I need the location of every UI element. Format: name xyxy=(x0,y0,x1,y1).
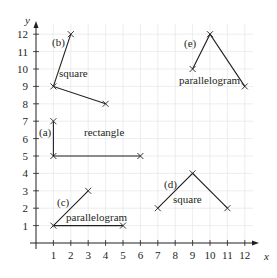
coordinate-grid-figure: 1 2 3 4 5 6 7 8 9 10 11 12 1 2 3 4 5 6 7… xyxy=(0,0,277,278)
x-axis-arrow-icon xyxy=(252,241,259,246)
shape-c-name: parallelogram xyxy=(66,211,128,223)
y-tick-label: 12 xyxy=(17,28,28,40)
x-tick-label: 12 xyxy=(239,249,250,261)
x-axis-label: x xyxy=(263,250,269,262)
x-tick-label: 1 xyxy=(51,249,57,261)
y-tick-label: 11 xyxy=(17,46,28,58)
shape-d-name: square xyxy=(173,193,202,205)
y-axis-arrow-icon xyxy=(34,21,39,28)
shape-b-name: square xyxy=(59,67,88,79)
x-tick-label: 10 xyxy=(205,249,217,261)
x-tick-label: 9 xyxy=(190,249,196,261)
shape-a-name: rectangle xyxy=(84,126,124,138)
y-tick-label: 8 xyxy=(23,98,29,110)
shape-e-name: parallelogram xyxy=(179,74,241,86)
shapes xyxy=(53,34,244,225)
x-tick-label: 3 xyxy=(85,249,91,261)
y-tick-label: 6 xyxy=(23,133,29,145)
x-tick-label: 4 xyxy=(103,249,109,261)
y-tick-label: 3 xyxy=(23,185,29,197)
shape-d-tag: (d) xyxy=(164,178,177,191)
shape-c-tag: (c) xyxy=(57,196,70,209)
shape-a-tag: (a) xyxy=(39,126,52,139)
shape-b-tag: (b) xyxy=(52,36,65,49)
x-tick-label: 7 xyxy=(155,249,161,261)
y-tick-label: 5 xyxy=(23,150,29,162)
x-tick-label: 2 xyxy=(68,249,74,261)
y-tick-label: 1 xyxy=(23,220,29,232)
y-tick-label: 2 xyxy=(23,202,29,214)
y-tick-labels: 1 2 3 4 5 6 7 8 9 10 11 12 xyxy=(17,28,29,231)
x-tick-labels: 1 2 3 4 5 6 7 8 9 10 11 12 xyxy=(51,249,251,261)
y-tick-label: 7 xyxy=(23,115,29,127)
y-axis-label: y xyxy=(24,14,30,26)
x-tick-label: 6 xyxy=(138,249,144,261)
y-tick-label: 4 xyxy=(23,167,29,179)
shape-e-tag: (e) xyxy=(184,37,197,50)
x-tick-label: 11 xyxy=(222,249,233,261)
y-tick-label: 9 xyxy=(23,80,29,92)
y-tick-label: 10 xyxy=(17,63,29,75)
x-tick-label: 5 xyxy=(120,249,126,261)
x-tick-label: 8 xyxy=(172,249,178,261)
